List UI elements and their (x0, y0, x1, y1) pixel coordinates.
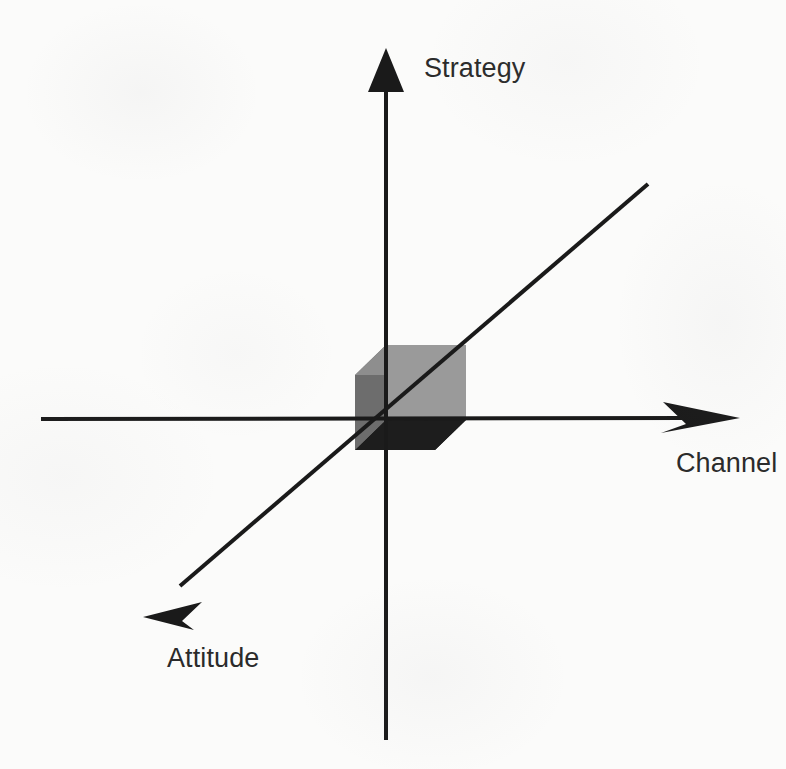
channel-axis-label: Channel (676, 450, 777, 477)
attitude-axis-line (180, 184, 648, 586)
cube-group (355, 345, 466, 450)
diagram-canvas: Strategy Channel Attitude (0, 0, 786, 769)
axes-and-cube-graphic (0, 0, 786, 769)
attitude-axis-label: Attitude (167, 645, 259, 672)
strategy-arrow-icon (368, 48, 404, 92)
strategy-axis-label: Strategy (424, 55, 525, 82)
attitude-arrow-icon (143, 602, 202, 630)
cube-front-face (386, 345, 466, 420)
channel-axis-line (41, 418, 690, 419)
